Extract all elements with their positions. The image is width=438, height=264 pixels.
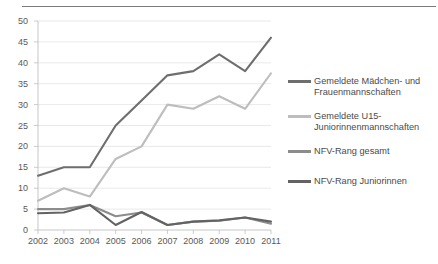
legend-entry[interactable]: NFV-Rang gesamt xyxy=(288,146,390,157)
top-divider-rule xyxy=(22,6,436,7)
y-tick-label: 20 xyxy=(18,142,28,151)
legend-label: NFV-Rang gesamt xyxy=(314,146,390,157)
x-tick-label: 2011 xyxy=(261,236,280,247)
x-tick-label: 2003 xyxy=(54,236,74,247)
y-tick-label: 35 xyxy=(18,79,28,88)
legend-color-swatch xyxy=(288,80,311,83)
y-tick-label: 15 xyxy=(18,163,28,172)
y-tick-label: 0 xyxy=(23,226,28,235)
y-tick-label: 50 xyxy=(18,17,28,26)
x-tick-label: 2007 xyxy=(157,236,177,247)
y-tick-label: 5 xyxy=(23,205,28,214)
x-tick-label: 2004 xyxy=(80,236,100,247)
legend-label: Gemeldete U15- Juniorinnenmannschaften xyxy=(314,111,419,134)
x-tick-label: 2002 xyxy=(28,236,48,247)
x-tick-label: 2009 xyxy=(209,236,229,247)
legend-entry[interactable]: NFV-Rang Juniorinnen xyxy=(288,176,407,187)
y-tick-label: 45 xyxy=(18,37,28,46)
chart-figure: 50454035302520151050 2002200320042005200… xyxy=(0,0,438,264)
x-tick-label: 2005 xyxy=(106,236,126,247)
legend-label: NFV-Rang Juniorinnen xyxy=(314,176,407,187)
y-tick-label: 40 xyxy=(18,58,28,67)
legend-entry[interactable]: Gemeldete U15- Juniorinnenmannschaften xyxy=(288,111,419,134)
y-tick-label: 30 xyxy=(18,100,28,109)
x-tick-label: 2010 xyxy=(235,236,255,247)
y-tick-label: 25 xyxy=(18,121,28,130)
legend-color-swatch xyxy=(288,180,311,183)
y-tick-label: 10 xyxy=(18,184,28,193)
plot-area xyxy=(38,21,271,230)
legend-color-swatch xyxy=(288,115,311,118)
legend-entry[interactable]: Gemeldete Mädchen- und Frauenmannschafte… xyxy=(288,76,420,99)
x-tick-label: 2006 xyxy=(132,236,152,247)
legend-color-swatch xyxy=(288,150,311,153)
y-axis-tick-labels: 50454035302520151050 xyxy=(0,21,33,230)
x-tick-label: 2008 xyxy=(183,236,203,247)
series-lines xyxy=(38,21,271,230)
series-line xyxy=(38,73,271,200)
series-line xyxy=(38,205,271,225)
legend-label: Gemeldete Mädchen- und Frauenmannschafte… xyxy=(314,76,420,99)
x-axis-tick-labels: 2002200320042005200620072008200920102011 xyxy=(38,236,271,252)
series-line xyxy=(38,38,271,176)
